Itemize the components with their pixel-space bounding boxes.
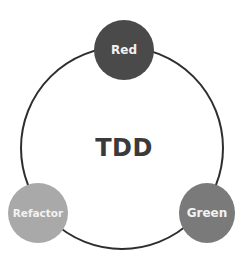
node-green: Green [179,183,235,243]
node-red-label: Red [111,43,137,57]
tdd-cycle-diagram: TDD Red Green Refactor [0,0,245,269]
node-red: Red [94,20,154,80]
diagram-title: TDD [0,134,245,162]
node-refactor: Refactor [8,183,68,243]
node-green-label: Green [187,206,228,220]
node-refactor-label: Refactor [13,207,64,219]
